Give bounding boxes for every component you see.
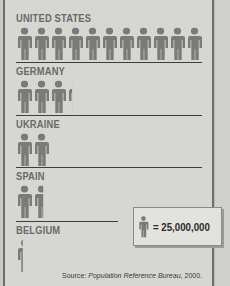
country-label: UNITED STATES [16,12,175,24]
person-icon [16,239,33,273]
figures [16,133,68,167]
figures [16,27,203,61]
person-icon [33,80,50,114]
person-icon [118,27,135,61]
person-icon [33,27,50,61]
person-icon [169,27,186,61]
person-icon [16,185,33,219]
divider [16,221,118,222]
person-icon [135,27,152,61]
person-icon [67,80,84,114]
person-icon [16,133,33,167]
person-icon [186,27,203,61]
person-icon [16,80,33,114]
person-icon [33,185,50,219]
person-icon [50,27,67,61]
divider [16,62,202,63]
legend-box: = 25,000,000 [133,207,222,246]
figures [16,185,50,219]
legend-value: = 25,000,000 [153,221,210,233]
row-ukraine: UKRAINE [16,118,68,167]
row-germany: GERMANY [16,65,84,114]
country-label: GERMANY [16,65,74,77]
person-icon [67,27,84,61]
divider [16,115,202,116]
row-united-states: UNITED STATES [16,12,203,61]
country-label: UKRAINE [16,118,60,130]
person-icon [50,80,67,114]
row-spain: SPAIN [16,170,50,219]
person-icon [138,216,149,238]
person-icon [84,27,101,61]
country-label: BELGIUM [16,224,60,236]
divider [16,167,202,168]
source-note: Source: Population Reference Bureau, 200… [62,271,202,280]
person-icon [33,133,50,167]
person-icon [16,27,33,61]
figures [16,80,84,114]
person-icon [101,27,118,61]
figures [16,239,68,273]
person-icon [152,27,169,61]
row-belgium: BELGIUM [16,224,68,273]
country-label: SPAIN [16,170,45,182]
